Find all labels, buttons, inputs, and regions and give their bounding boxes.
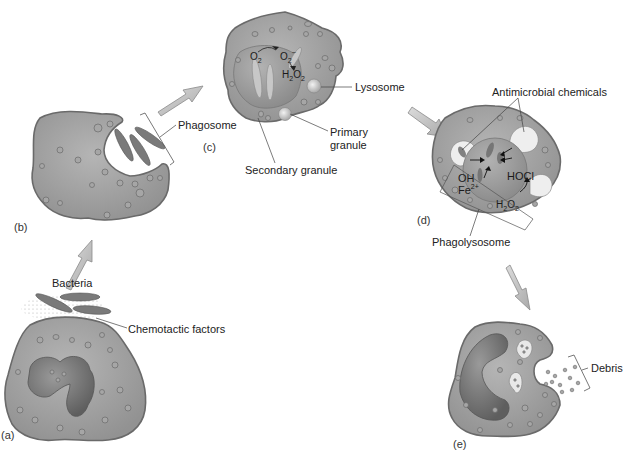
panel-a-neutrophil: [5, 291, 146, 441]
callout-chemotactic-factors: Chemotactic factors: [128, 323, 225, 335]
panel-b-phagocyte-engulfing: [32, 112, 176, 221]
callout-phagolysosome: Phagolysosome: [432, 236, 510, 248]
panel-label-a: (a): [1, 429, 14, 441]
callout-bacteria: Bacteria: [52, 277, 92, 289]
panel-label-c: (c): [203, 141, 216, 153]
engulfed-bacteria: [112, 124, 167, 167]
callout-antimicrobial-chemicals: Antimicrobial chemicals: [492, 86, 607, 98]
panel-label-d: (d): [417, 214, 430, 226]
phagocytosis-diagram: O2 O2− H2O2: [0, 0, 629, 463]
arrow-d-to-e: [506, 265, 530, 310]
panel-label-e: (e): [453, 438, 466, 450]
lysosome: [307, 79, 321, 93]
chem-hypochlorous-acid: HOCl: [507, 170, 534, 182]
panel-d-phagolysosome: OH Fe2+ HOCl H2O2: [432, 98, 560, 236]
panel-e-debris-release: [449, 322, 590, 436]
debris-bracket: [568, 355, 590, 391]
panel-label-b: (b): [14, 221, 27, 233]
arrow-b-to-c: [158, 86, 203, 116]
callout-primary-granule-2: granule: [330, 139, 367, 151]
primary-granule: [279, 108, 292, 121]
callout-secondary-granule: Secondary granule: [245, 164, 337, 176]
callout-phagosome: Phagosome: [178, 119, 237, 131]
callout-primary-granule-1: Primary: [330, 126, 368, 138]
diagram-canvas: O2 O2− H2O2: [0, 0, 629, 463]
callout-debris: Debris: [591, 362, 623, 374]
callout-lysosome: Lysosome: [355, 81, 405, 93]
